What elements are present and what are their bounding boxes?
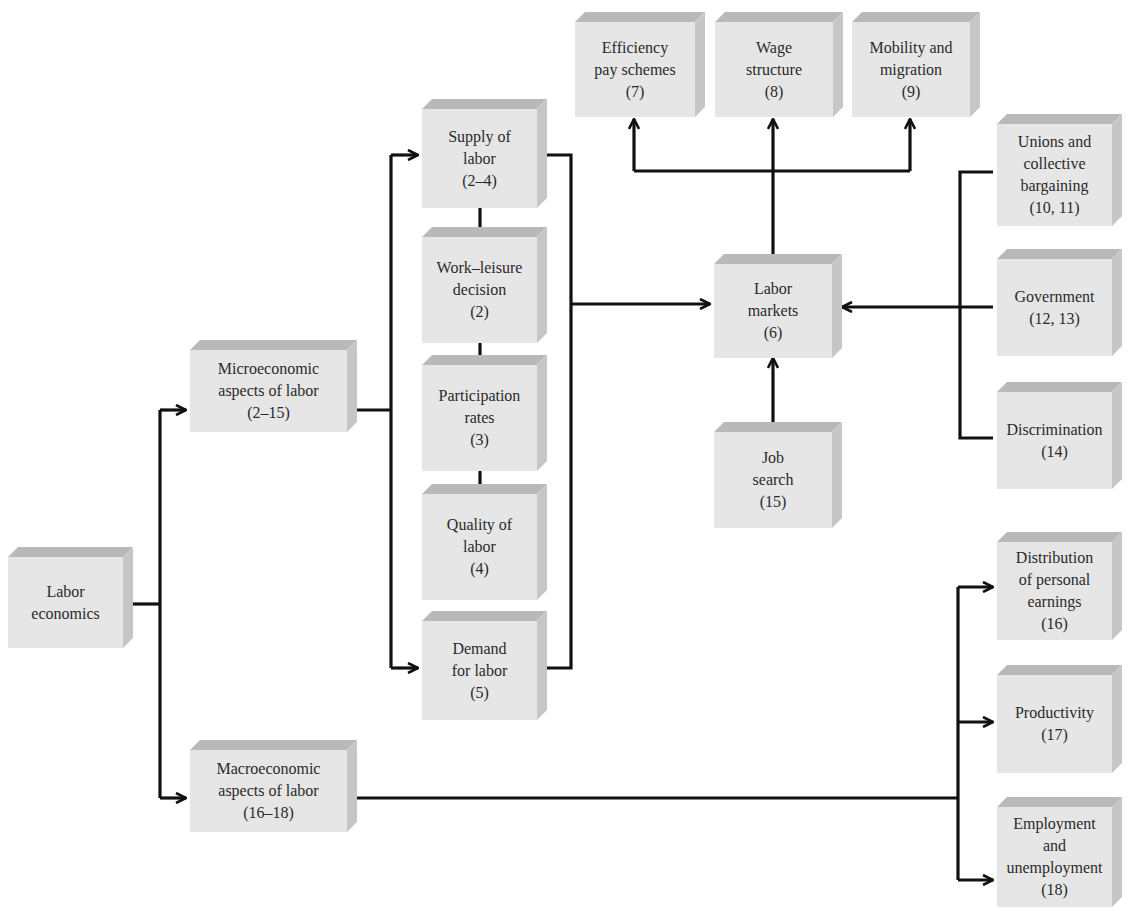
node-labor-economics: Labor economics	[8, 547, 133, 648]
connector-lines	[0, 0, 1132, 911]
node-label: Government (12, 13)	[1015, 286, 1095, 330]
node-label: Mobility and migration (9)	[869, 37, 952, 103]
node-label: Labor markets (6)	[748, 278, 799, 344]
node-label: Participation rates (3)	[439, 385, 521, 451]
node-productivity: Productivity (17)	[997, 665, 1122, 773]
node-label: Macroeconomic aspects of labor (16–18)	[217, 758, 321, 824]
node-demand-for-labor: Demand for labor (5)	[422, 611, 547, 720]
node-employment-and-unemployment: Employment and unemployment (18)	[997, 797, 1122, 907]
node-label: Employment and unemployment (18)	[1007, 813, 1103, 901]
node-label: Discrimination (14)	[1007, 419, 1103, 463]
node-label: Productivity (17)	[1015, 702, 1094, 746]
node-wage-structure: Wage structure (8)	[715, 12, 843, 117]
node-label: Wage structure (8)	[746, 37, 802, 103]
node-unions-and-collective-bargaining: Unions and collective bargaining (10, 11…	[997, 114, 1122, 226]
node-macroeconomic-aspects: Macroeconomic aspects of labor (16–18)	[190, 740, 357, 832]
edge-supply-demand-bracket	[547, 155, 571, 668]
node-distribution-of-personal-earnings: Distribution of personal earnings (16)	[997, 532, 1122, 640]
node-participation-rates: Participation rates (3)	[422, 355, 547, 471]
node-work-leisure-decision: Work–leisure decision (2)	[422, 227, 547, 343]
node-discrimination: Discrimination (14)	[997, 382, 1122, 489]
node-label: Supply of labor (2–4)	[448, 126, 511, 192]
node-label: Job search (15)	[753, 447, 794, 513]
node-microeconomic-aspects: Microeconomic aspects of labor (2–15)	[190, 340, 357, 432]
node-label: Efficiency pay schemes (7)	[594, 37, 675, 103]
node-label: Unions and collective bargaining (10, 11…	[1018, 131, 1091, 219]
node-label: Demand for labor (5)	[452, 638, 508, 704]
node-supply-of-labor: Supply of labor (2–4)	[422, 99, 547, 208]
node-label: Work–leisure decision (2)	[437, 257, 523, 323]
node-government: Government (12, 13)	[997, 249, 1122, 356]
node-labor-markets: Labor markets (6)	[714, 254, 842, 358]
node-label: Microeconomic aspects of labor (2–15)	[218, 358, 319, 424]
node-quality-of-labor: Quality of labor (4)	[422, 484, 547, 600]
node-efficiency-pay-schemes: Efficiency pay schemes (7)	[575, 12, 705, 117]
labor-economics-diagram: Labor economics Microeconomic aspects of…	[0, 0, 1132, 911]
node-label: Labor economics	[31, 581, 99, 625]
edge-institutions-bracket	[960, 172, 993, 438]
node-job-search: Job search (15)	[714, 422, 842, 528]
node-label: Quality of labor (4)	[447, 514, 512, 580]
node-mobility-and-migration: Mobility and migration (9)	[852, 12, 980, 117]
node-label: Distribution of personal earnings (16)	[1016, 547, 1093, 635]
